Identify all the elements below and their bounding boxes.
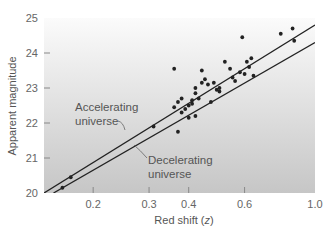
data-point — [183, 107, 187, 111]
data-point — [172, 67, 176, 71]
data-point — [228, 67, 232, 71]
data-point — [292, 39, 296, 43]
data-point — [176, 100, 180, 104]
x-tick-label: 0.6 — [237, 198, 252, 210]
data-point — [187, 104, 191, 108]
redshift-magnitude-chart: 202122232425 0.20.30.40.61.0 Acceleratin… — [0, 0, 333, 235]
data-point — [231, 76, 235, 80]
accelerating-label-2: universe — [75, 115, 118, 127]
data-point — [218, 90, 222, 94]
data-point — [190, 102, 194, 106]
accelerating-label-1: Accelerating — [75, 101, 138, 113]
y-tick-label: 24 — [26, 47, 38, 59]
y-tick-label: 20 — [26, 187, 38, 199]
data-point — [238, 70, 242, 74]
data-point — [200, 81, 204, 85]
data-point — [187, 116, 191, 120]
x-tick-label: 0.4 — [181, 198, 196, 210]
data-point — [249, 56, 253, 60]
data-point — [172, 105, 176, 109]
y-tick-label: 22 — [26, 117, 38, 129]
y-tick-label: 23 — [26, 82, 38, 94]
data-point — [223, 60, 227, 64]
data-point — [279, 32, 283, 36]
data-point — [152, 125, 156, 129]
data-point — [69, 175, 73, 179]
data-point — [243, 72, 247, 76]
data-point — [240, 35, 244, 39]
x-axis-title: Red shift (z) — [154, 214, 213, 226]
data-point — [245, 60, 249, 64]
data-point — [212, 81, 216, 85]
data-point — [247, 65, 251, 69]
data-point — [209, 100, 213, 104]
data-point — [203, 77, 207, 81]
data-point — [291, 27, 295, 31]
y-tick-label: 21 — [26, 152, 38, 164]
data-point — [233, 79, 237, 83]
data-point — [197, 97, 201, 101]
data-point — [218, 86, 222, 90]
data-point — [252, 74, 256, 78]
data-point — [194, 91, 198, 95]
decelerating-label-1: Decelerating — [148, 154, 213, 166]
data-point — [190, 98, 194, 102]
y-axis-title: Apparent magnitude — [6, 56, 18, 155]
data-point — [206, 83, 210, 87]
data-point — [200, 69, 204, 73]
data-point — [180, 111, 184, 115]
data-point — [180, 97, 184, 101]
x-tick-label: 1.0 — [307, 198, 322, 210]
data-point — [194, 114, 198, 118]
x-tick-label: 0.3 — [141, 198, 156, 210]
decelerating-label-2: universe — [148, 168, 191, 180]
y-tick-label: 25 — [26, 12, 38, 24]
x-tick-label: 0.2 — [86, 198, 101, 210]
data-point — [176, 130, 180, 134]
data-point — [61, 186, 65, 190]
data-point — [194, 86, 198, 90]
